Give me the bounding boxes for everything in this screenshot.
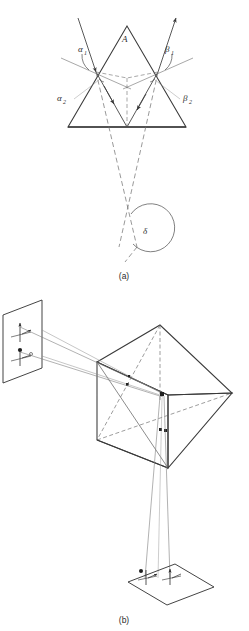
prism-right-face <box>168 393 232 468</box>
panel-a-caption: (a) <box>119 271 130 281</box>
exit-ray-backward-extension-dashed <box>119 72 158 247</box>
ray-point-marker-interior-2 <box>126 383 129 386</box>
object-plane <box>3 300 42 383</box>
alpha-1-label: α <box>78 44 83 54</box>
ray-point-marker-image-left <box>139 569 143 573</box>
internal-ray-outgoing-arrow <box>137 94 146 110</box>
ray-point-marker-interior-1 <box>128 375 130 377</box>
ray-point-marker-object <box>18 348 22 352</box>
delta-label: δ <box>143 226 148 236</box>
deviation-angle-arc <box>131 204 175 252</box>
figure-canvas: A α 1 α 2 β 1 β 2 δ (a) <box>0 0 249 631</box>
beta-1-subscript: 1 <box>171 50 174 56</box>
image-cross-bar-right <box>162 576 181 580</box>
panel-b-caption: (b) <box>119 615 130 625</box>
prism-bottom-edge <box>97 440 168 468</box>
internal-ray-incoming-arrow <box>104 86 114 104</box>
beta-2-subscript: 2 <box>189 99 192 105</box>
orientation-cross-bar <box>11 332 31 337</box>
beta-2-label: β <box>182 93 188 103</box>
prism-hidden-diagonal-2 <box>97 325 160 440</box>
optics-figure: A α 1 α 2 β 1 β 2 δ (a) <box>0 0 249 631</box>
object-arrow-marker-lower <box>11 348 33 366</box>
alpha-1-subscript: 1 <box>84 50 87 56</box>
panel-b: (b) <box>3 300 232 625</box>
inner-construction-chevron <box>96 72 158 78</box>
prism-top-face <box>97 325 232 395</box>
orientation-cross-bar-lower <box>11 356 31 361</box>
alpha-2-subscript: 2 <box>63 99 66 105</box>
ray-prism-to-image-right <box>164 396 170 578</box>
ray-object-to-prism-upper <box>20 327 163 393</box>
image-arrow-marker-right <box>162 569 181 585</box>
ray-prism-to-image-center <box>158 398 162 578</box>
ray-prism-to-image-left <box>145 396 160 578</box>
beta-1-label: β <box>164 44 170 54</box>
incident-ray-extension-dashed <box>96 72 137 247</box>
ray-point-marker-lower-2 <box>164 429 167 432</box>
object-arrow-marker-upper <box>11 323 31 342</box>
alpha-2-label: α <box>57 93 62 103</box>
apex-angle-label: A <box>121 34 128 44</box>
ray-point-marker-focus <box>160 392 164 396</box>
delta-lower-extension-dashed <box>125 247 137 262</box>
ray-object-to-prism-lower <box>20 352 163 397</box>
panel-a: A α 1 α 2 β 1 β 2 δ (a) <box>57 18 193 281</box>
